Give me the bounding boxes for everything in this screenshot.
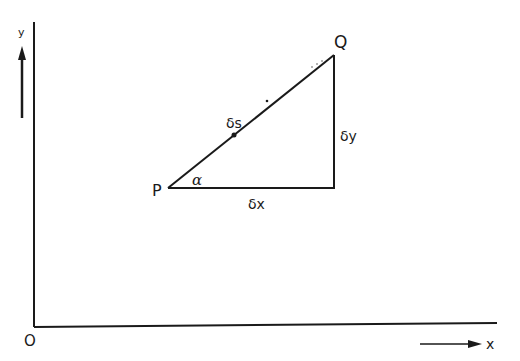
- hypotenuse-dot: [266, 100, 269, 103]
- y-direction-arrow-icon: [18, 46, 26, 118]
- dotted-mark: [311, 66, 313, 68]
- point-p-label: P: [152, 181, 162, 200]
- x-direction-arrow-icon: [420, 340, 482, 348]
- y-axis-label: y: [18, 26, 25, 39]
- hypotenuse-point: [232, 133, 237, 138]
- diagram-canvas: y x O P Q α δx δy δs: [0, 0, 520, 361]
- dotted-mark: [321, 60, 323, 62]
- origin-label: O: [24, 332, 36, 350]
- dy-label: δy: [340, 128, 357, 144]
- point-q-label: Q: [334, 32, 347, 52]
- dotted-mark: [316, 63, 318, 65]
- dx-label: δx: [248, 196, 265, 212]
- ds-label: δs: [226, 115, 242, 131]
- right-triangle: [168, 55, 335, 189]
- x-axis-label: x: [486, 336, 494, 352]
- hypotenuse-ds: [168, 55, 334, 188]
- angle-alpha-label: α: [192, 171, 202, 189]
- x-axis: [34, 323, 497, 327]
